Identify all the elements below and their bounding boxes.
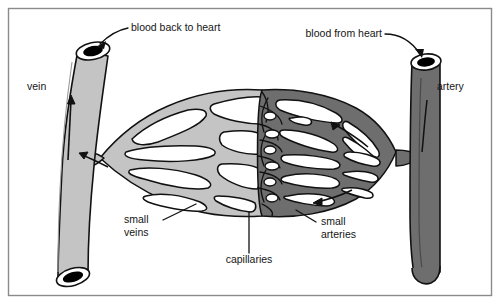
label-capillaries: capillaries: [226, 253, 273, 265]
label-small-veins-line1: small: [124, 213, 149, 225]
label-small-arteries-line1: small: [321, 215, 346, 227]
artery-tube: [410, 62, 440, 279]
label-blood-back-to-heart: blood back to heart: [131, 21, 220, 33]
capillary-bead-5: [264, 178, 276, 186]
label-small-arteries-line2: arteries: [321, 228, 356, 240]
label-blood-from-heart: blood from heart: [306, 27, 383, 39]
label-vein: vein: [27, 80, 46, 92]
capillary-bead-2: [265, 130, 279, 138]
capillary-bead-3: [264, 146, 276, 154]
capillary-bead-1: [264, 112, 276, 120]
label-small-veins-line2: veins: [124, 226, 149, 238]
label-artery: artery: [437, 80, 465, 92]
circulation-diagram: blood back to heart blood from heart vei…: [0, 0, 500, 304]
diagram-canvas: blood back to heart blood from heart vei…: [0, 0, 500, 304]
capillary-bead-6: [266, 194, 278, 202]
capillary-bead-4: [265, 162, 279, 170]
